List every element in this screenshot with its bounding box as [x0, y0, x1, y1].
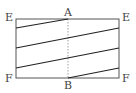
diagonal-line-3 — [16, 48, 119, 68]
label-top-right: E — [122, 11, 130, 24]
unrolled-surface-diagram: E A E F B F — [0, 0, 136, 93]
label-bottom-left: F — [5, 72, 13, 85]
diagonal-line-1 — [16, 19, 68, 28]
rectangle-outline — [16, 19, 119, 78]
diagonal-line-2 — [16, 28, 119, 48]
label-bottom-right: F — [122, 72, 130, 85]
label-top-middle: A — [63, 6, 73, 19]
label-top-left: E — [5, 11, 13, 24]
label-bottom-middle: B — [64, 79, 72, 92]
diagonal-line-4 — [68, 68, 119, 78]
